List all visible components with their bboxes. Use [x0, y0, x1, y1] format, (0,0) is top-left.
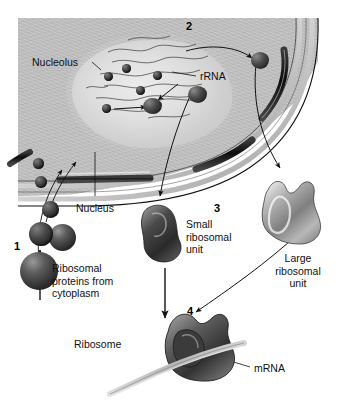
- protein-particle: [102, 104, 111, 113]
- protein-particle: [104, 72, 113, 81]
- large-ribosomal-unit-shape: [262, 181, 320, 244]
- assembling-particle: [143, 98, 162, 114]
- ribosome-assembly-diagram: 1 2 3 4 Nucleolus rRNA Nucleus Small rib…: [0, 0, 339, 410]
- step-number-3: 3: [214, 202, 220, 214]
- protein-particle: [49, 224, 76, 251]
- protein-particle: [29, 222, 53, 246]
- step-number-2: 2: [186, 20, 192, 32]
- small-ribosomal-unit-shape: [141, 205, 181, 262]
- protein-particle: [153, 71, 162, 80]
- protein-particle: [42, 201, 59, 218]
- label-nucleolus: Nucleolus: [32, 56, 78, 69]
- label-ribosomal-proteins: Ribosomal proteins from cytoplasm: [52, 262, 113, 300]
- label-mrna: mRNA: [254, 362, 285, 375]
- step-number-4: 4: [187, 305, 193, 317]
- ribosome-small-lobe: [173, 330, 204, 367]
- label-small-ribosomal-unit: Small ribosomal unit: [186, 218, 232, 256]
- protein-particle: [136, 86, 145, 95]
- assembling-particle: [251, 52, 269, 69]
- assembling-particle: [188, 86, 207, 103]
- step-number-1: 1: [14, 240, 20, 252]
- label-ribosome: Ribosome: [74, 338, 121, 351]
- protein-particle: [122, 64, 131, 73]
- mrna-strand: [109, 343, 244, 397]
- nucleolus-highlight: [66, 34, 240, 156]
- label-large-ribosomal-unit: Large ribosomal unit: [262, 252, 334, 290]
- protein-particle: [33, 158, 44, 169]
- label-nucleus: Nucleus: [76, 202, 114, 215]
- protein-particle: [35, 176, 47, 188]
- label-rrna: rRNA: [200, 70, 226, 83]
- ribosome-shape: [165, 314, 234, 381]
